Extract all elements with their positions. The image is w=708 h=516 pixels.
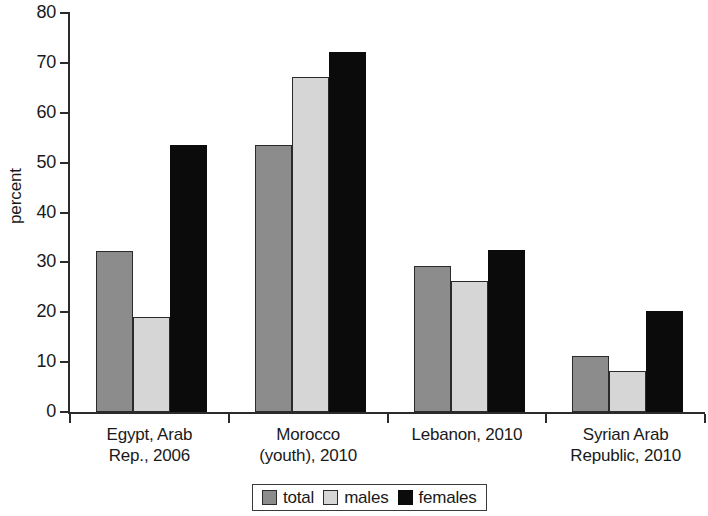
legend-label-females: females [419,489,477,506]
x-axis-tick [69,414,71,423]
y-axis-tick-label: 50 [0,153,56,171]
bar-females-2 [329,52,366,412]
legend-item: total [262,489,314,506]
x-axis-category-label: Egypt, ArabRep., 2006 [70,424,229,466]
x-axis-category-label-line: Egypt, Arab [70,424,229,445]
bar-total-1 [96,251,133,412]
legend-item: females [398,489,477,506]
y-axis-tick-label: 60 [0,103,56,121]
bar-males-4 [609,371,646,412]
x-axis-category-label-line: Syrian Arab [546,424,705,445]
legend-item: males [323,489,388,506]
x-axis-category-label: Morocco(youth), 2010 [229,424,388,466]
bar-females-4 [646,311,683,412]
x-axis-tick [387,414,389,423]
x-axis-category-label: Lebanon, 2010 [388,424,547,445]
y-axis-tick-label: 40 [0,203,56,221]
x-axis-category-label-line: Lebanon, 2010 [388,424,547,445]
bar-chart: percent 01020304050607080 Egypt, ArabRep… [0,0,708,516]
x-axis-category-label-line: Republic, 2010 [546,445,705,466]
y-axis-tick [60,411,69,413]
legend-swatch-females-icon [398,490,413,505]
y-axis-tick-label: 70 [0,53,56,71]
legend-swatch-total-icon [262,490,277,505]
y-axis-tick-label: 80 [0,3,56,21]
x-axis-tick [228,414,230,423]
x-axis-category-label-line: Morocco [229,424,388,445]
y-axis-tick [60,12,69,14]
y-axis-tick [60,212,69,214]
y-axis-tick [60,261,69,263]
chart-legend: total males females [252,484,487,511]
y-axis-tick-label: 0 [0,402,56,420]
legend-label-total: total [283,489,314,506]
x-axis-tick [545,414,547,423]
bar-males-1 [133,317,170,412]
x-axis-tick [704,414,706,423]
bar-females-3 [488,250,525,412]
bar-total-3 [414,266,451,412]
bar-total-2 [255,145,292,412]
x-axis-category-label-line: (youth), 2010 [229,445,388,466]
bar-females-1 [170,145,207,412]
x-axis-category-label: Syrian ArabRepublic, 2010 [546,424,705,466]
legend-swatch-males-icon [323,490,338,505]
y-axis-tick [60,162,69,164]
y-axis-tick [60,361,69,363]
legend-label-males: males [344,489,388,506]
y-axis-tick-label: 10 [0,352,56,370]
y-axis-tick-label: 20 [0,302,56,320]
bar-total-4 [572,356,609,412]
y-axis-tick [60,62,69,64]
bar-males-3 [451,281,488,412]
x-axis-category-label-line: Rep., 2006 [70,445,229,466]
y-axis-tick [60,112,69,114]
y-axis-tick-label: 30 [0,252,56,270]
bar-males-2 [292,77,329,412]
y-axis-tick [60,311,69,313]
